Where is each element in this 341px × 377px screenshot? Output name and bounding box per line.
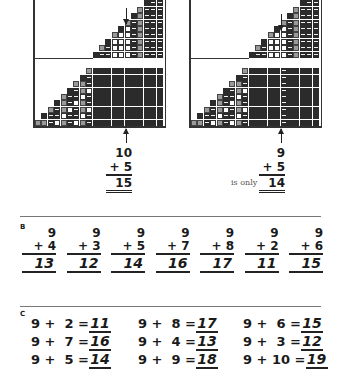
grid-cell xyxy=(313,94,319,100)
grid-cell xyxy=(261,113,267,119)
grid-cell xyxy=(300,75,306,81)
grid-cell xyxy=(105,107,111,113)
equation-answer[interactable]: 18 xyxy=(196,352,218,369)
equation-answer[interactable]: 16 xyxy=(89,334,111,351)
problem-answer[interactable]: 11 xyxy=(245,255,279,273)
grid-cell xyxy=(274,32,280,38)
equation-answer[interactable]: 17 xyxy=(196,316,218,333)
grid-cell xyxy=(150,52,156,58)
grid-cell xyxy=(287,94,293,100)
grid-cell xyxy=(268,113,274,119)
grid-cell xyxy=(300,32,306,38)
equation-answer[interactable]: 12 xyxy=(301,334,323,351)
equation-answer[interactable]: 13 xyxy=(196,334,218,351)
grid-cell xyxy=(157,52,163,58)
grid-cell xyxy=(274,88,280,94)
problem-answer[interactable]: 12 xyxy=(67,255,101,273)
grid-cell xyxy=(287,52,293,58)
grid-cell xyxy=(293,7,299,13)
grid-cell xyxy=(255,113,261,119)
grid-cell xyxy=(287,32,293,38)
grid-cell xyxy=(313,32,319,38)
grid-cell xyxy=(300,113,306,119)
grid-cell xyxy=(236,120,242,126)
section-divider-c xyxy=(20,306,321,307)
grid-cell xyxy=(287,81,293,87)
grid-cell xyxy=(229,88,235,94)
grid-cell xyxy=(144,100,150,106)
grid-cell xyxy=(242,81,248,87)
grid-cell xyxy=(54,107,60,113)
grid-cell xyxy=(137,26,143,32)
grid-cell xyxy=(306,88,312,94)
grid-cell xyxy=(191,120,197,126)
grid-cell xyxy=(287,26,293,32)
problem-addend: + 3 xyxy=(67,240,101,255)
grid-cell xyxy=(313,52,319,58)
grid-cell xyxy=(223,107,229,113)
grid-cell xyxy=(236,81,242,87)
grid-cell xyxy=(125,107,131,113)
grid-cell xyxy=(249,120,255,126)
vertical-addition-problem: 9+ 716 xyxy=(156,227,190,273)
grid-cell xyxy=(150,13,156,19)
equation-expression: 9 + 8 = xyxy=(138,316,196,331)
problem-answer[interactable]: 16 xyxy=(156,255,190,273)
grid-cell xyxy=(118,68,124,74)
grid-cell xyxy=(274,113,280,119)
vertical-addition-problem: 9+ 211 xyxy=(245,227,279,273)
grid-cell xyxy=(157,107,163,113)
grid-cell xyxy=(300,39,306,45)
grid-cell xyxy=(306,120,312,126)
equation-item: 9 + 7 =16 xyxy=(31,334,111,351)
grid-cell xyxy=(293,75,299,81)
grid-cell xyxy=(236,100,242,106)
grid-cell xyxy=(41,113,47,119)
grid-cell xyxy=(157,75,163,81)
grid-cell xyxy=(48,107,54,113)
grid-cell xyxy=(204,107,210,113)
grid-cell xyxy=(118,32,124,38)
grid-cell xyxy=(131,120,137,126)
grid-cell xyxy=(105,94,111,100)
grid-cell xyxy=(157,88,163,94)
problem-answer[interactable]: 17 xyxy=(200,255,234,273)
equation-answer[interactable]: 15 xyxy=(301,316,323,333)
grid-cell xyxy=(300,81,306,87)
equation-expression: 9 + 10 = xyxy=(243,352,306,367)
grid-cell xyxy=(61,100,67,106)
problem-answer[interactable]: 13 xyxy=(22,255,56,273)
equation-answer[interactable]: 14 xyxy=(89,352,111,369)
problem-addend: + 7 xyxy=(156,240,190,255)
grid-cell xyxy=(144,20,150,26)
equation-answer[interactable]: 19 xyxy=(306,352,328,369)
vertical-addition-problem: 9+ 312 xyxy=(67,227,101,273)
grid-cell xyxy=(217,94,223,100)
grid-cell xyxy=(236,113,242,119)
grid-cell xyxy=(131,68,137,74)
grid-cell xyxy=(118,81,124,87)
grid-cell xyxy=(93,81,99,87)
grid-cell xyxy=(131,52,137,58)
grid-cell xyxy=(281,32,287,38)
grid-cell xyxy=(197,113,203,119)
grid-cell xyxy=(293,52,299,58)
grid-cell xyxy=(137,120,143,126)
grid-cell xyxy=(99,68,105,74)
grid-cell xyxy=(313,7,319,13)
grid-cell xyxy=(287,120,293,126)
grid-cell xyxy=(86,107,92,113)
grid-cell xyxy=(144,68,150,74)
grid-cell xyxy=(293,26,299,32)
grid-cell xyxy=(229,113,235,119)
problem-answer[interactable]: 15 xyxy=(289,255,323,273)
grid-cell xyxy=(112,88,118,94)
equation-answer[interactable]: 11 xyxy=(89,316,111,333)
grid-cell xyxy=(150,100,156,106)
grid-cell xyxy=(268,81,274,87)
grid-cell xyxy=(313,113,319,119)
grid-cell xyxy=(150,107,156,113)
problem-answer[interactable]: 14 xyxy=(111,255,145,273)
grid-cell xyxy=(73,88,79,94)
grid-cell xyxy=(261,120,267,126)
